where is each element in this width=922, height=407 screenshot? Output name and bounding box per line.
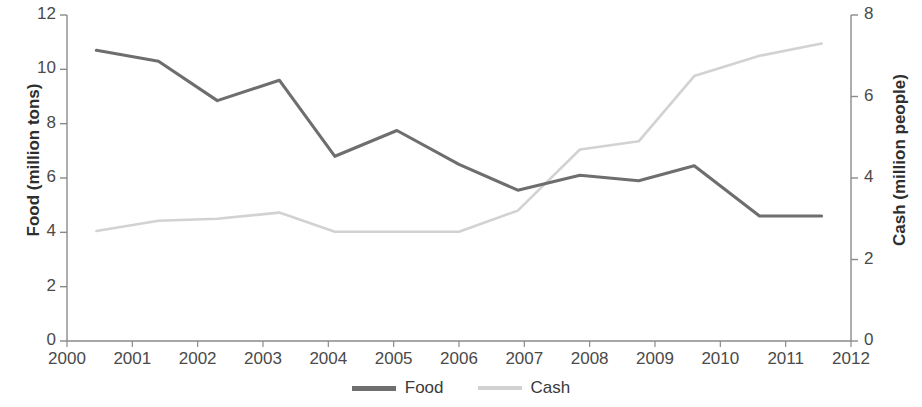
chart-legend: Food Cash: [0, 378, 922, 398]
legend-item-cash: Cash: [478, 378, 571, 398]
chart-container: Food (million tons) Cash (million people…: [0, 0, 922, 407]
legend-swatch-food-icon: [352, 386, 396, 391]
series-line-food: [96, 50, 821, 216]
axis-tick-marks: [60, 15, 858, 347]
legend-item-food: Food: [352, 378, 444, 398]
legend-label-food: Food: [405, 378, 444, 398]
legend-label-cash: Cash: [531, 378, 571, 398]
legend-swatch-cash-icon: [478, 386, 522, 390]
series-line-cash: [96, 44, 821, 232]
plot-area: [0, 0, 922, 407]
